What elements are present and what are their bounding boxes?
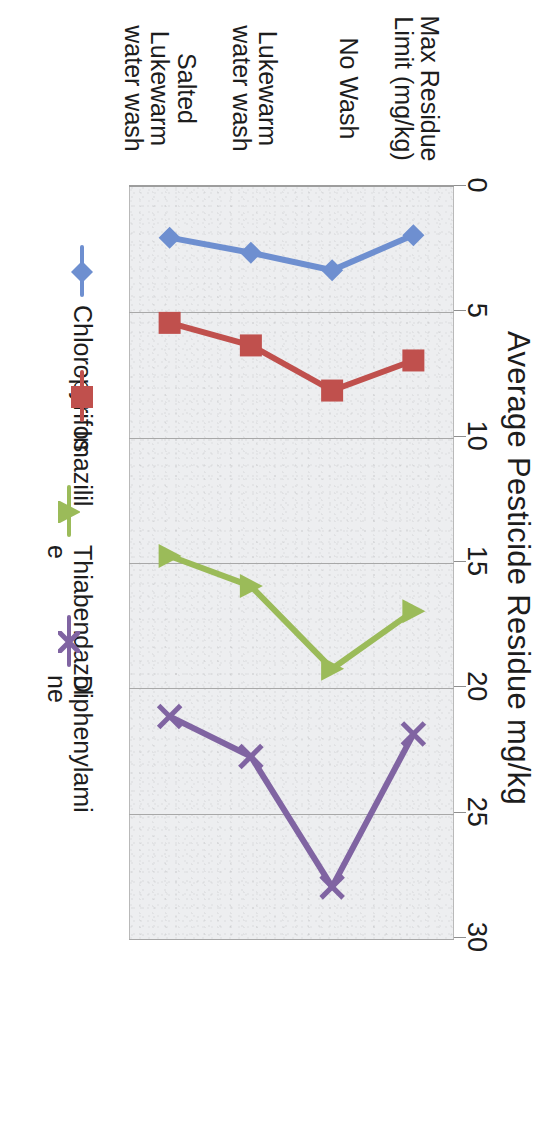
legend-marker-glyph xyxy=(71,261,93,283)
category-label: Max Residue Limit (mg/kg) xyxy=(391,0,444,177)
legend-marker-glyph xyxy=(71,386,93,408)
data-point xyxy=(159,544,182,568)
data-point xyxy=(321,380,343,402)
value-tick-mark xyxy=(453,561,466,562)
legend-marker-icon xyxy=(69,370,95,422)
value-tick-mark xyxy=(453,686,466,687)
data-series-layer xyxy=(129,185,454,937)
legend-marker-icon xyxy=(69,245,95,297)
value-tick-mark xyxy=(453,812,466,813)
series-line-0 xyxy=(170,235,414,270)
value-tick-mark xyxy=(453,185,466,186)
data-point xyxy=(159,312,181,334)
data-point xyxy=(159,227,181,249)
line-chart: Average Pesticide Residue mg/kg 05101520… xyxy=(0,0,544,1122)
legend: ChloropyrifosImazililThiabendazol eDiphe… xyxy=(9,185,109,937)
value-tick-mark xyxy=(453,310,466,311)
data-point xyxy=(402,599,425,623)
category-label: Salted Lukewarm water wash xyxy=(121,0,200,177)
data-point xyxy=(402,723,424,745)
value-tick-mark xyxy=(453,436,466,437)
data-point xyxy=(402,349,424,371)
legend-marker-icon xyxy=(57,485,83,537)
series-line-3 xyxy=(170,716,414,887)
series-line-1 xyxy=(170,323,414,391)
data-point xyxy=(321,259,343,281)
data-point xyxy=(321,876,343,898)
series-line-2 xyxy=(170,556,414,669)
data-point xyxy=(402,224,424,246)
category-label: No Wash xyxy=(336,0,362,177)
data-point xyxy=(240,334,262,356)
legend-label: Diphenylami ne xyxy=(44,675,95,813)
value-tick-mark xyxy=(453,937,466,938)
data-point xyxy=(159,705,181,727)
category-label: Lukewarm water wash xyxy=(228,0,281,177)
gridline xyxy=(129,939,454,940)
legend-item[interactable]: Diphenylami ne xyxy=(44,615,95,813)
legend-marker-glyph xyxy=(59,631,81,653)
chart-screenshot: Average Pesticide Residue mg/kg 05101520… xyxy=(0,0,544,1122)
legend-marker-icon xyxy=(57,615,83,667)
data-point xyxy=(240,746,262,768)
legend-marker-glyph xyxy=(59,501,81,523)
value-axis-title: Average Pesticide Residue mg/kg xyxy=(500,248,536,888)
rotated-chart-wrapper: Average Pesticide Residue mg/kg 05101520… xyxy=(0,0,544,1122)
data-point xyxy=(240,242,262,264)
